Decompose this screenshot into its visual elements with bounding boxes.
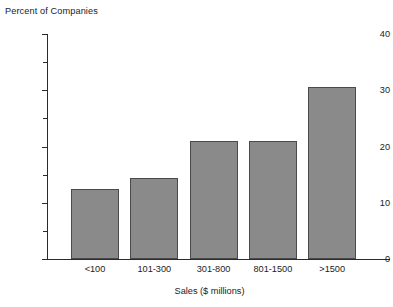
bar: [190, 141, 238, 259]
x-tick-label: 101-300: [137, 264, 171, 274]
x-axis-title: Sales ($ millions): [0, 286, 393, 296]
bar: [71, 189, 119, 259]
x-tick-label: <100: [85, 264, 106, 274]
x-tick-label: 801-1500: [253, 264, 292, 274]
x-tick-label: 301-800: [197, 264, 231, 274]
x-axis-title-text: Sales ($ millions): [175, 286, 245, 296]
bar: [130, 178, 178, 259]
bar-series: [0, 0, 393, 307]
x-tick-label: >1500: [319, 264, 345, 274]
bar: [308, 87, 356, 259]
plot-area: 010203040 <100101-300301-800801-1500>150…: [0, 0, 393, 307]
bar: [249, 141, 297, 259]
chart-screenshot: Percent of Companies 010203040 <100101-3…: [0, 0, 393, 307]
